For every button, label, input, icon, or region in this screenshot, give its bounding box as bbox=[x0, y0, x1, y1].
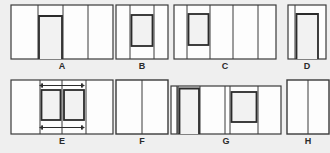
figure-h-drawing bbox=[286, 79, 330, 135]
figure-panel-f: F bbox=[115, 79, 169, 135]
figure-panel-c: C bbox=[173, 4, 277, 60]
figure-sheet: A B C D bbox=[0, 0, 330, 153]
figure-b-drawing bbox=[115, 4, 169, 60]
figure-d-drawing bbox=[287, 4, 327, 60]
figure-a-drawing bbox=[10, 4, 114, 60]
figure-c-label: C bbox=[215, 61, 235, 71]
figure-e-label: E bbox=[52, 136, 72, 146]
figure-panel-g: G bbox=[170, 79, 282, 135]
figure-e-drawing bbox=[10, 79, 114, 135]
figure-g-label: G bbox=[216, 136, 236, 146]
figure-a-label: A bbox=[52, 61, 72, 71]
figure-panel-h: H bbox=[286, 79, 330, 135]
figure-c-drawing bbox=[173, 4, 277, 60]
figure-h-label: H bbox=[298, 136, 318, 146]
figure-panel-a: A bbox=[10, 4, 114, 60]
figure-d-label: D bbox=[297, 61, 317, 71]
figure-f-drawing bbox=[115, 79, 169, 135]
figure-panel-b: B bbox=[115, 4, 169, 60]
figure-panel-e: E bbox=[10, 79, 114, 135]
figure-b-label: B bbox=[132, 61, 152, 71]
figure-f-label: F bbox=[132, 136, 152, 146]
figure-g-drawing bbox=[170, 79, 282, 135]
figure-panel-d: D bbox=[287, 4, 327, 60]
